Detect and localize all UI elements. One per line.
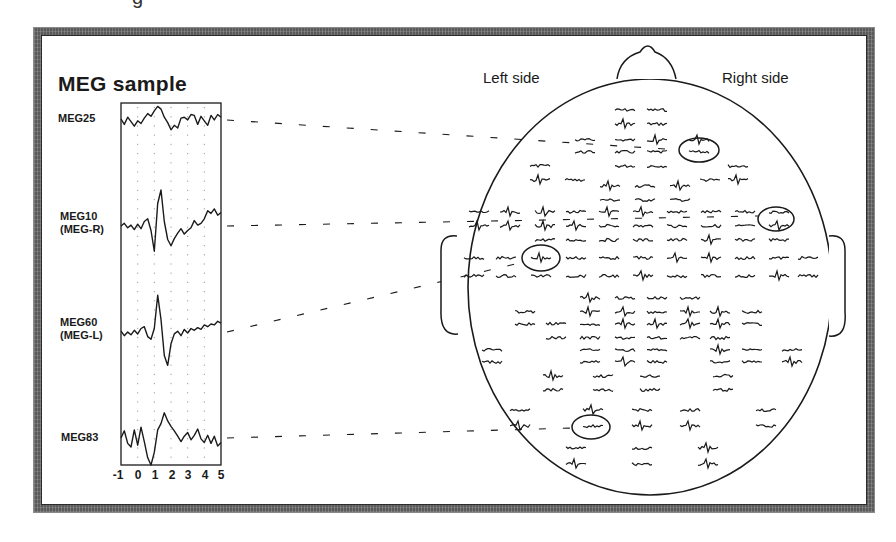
sensor-trace [615,297,635,300]
sensor-trace [647,319,667,328]
channel-sublabel: (MEG-R) [60,223,104,236]
sensor-trace [535,239,555,242]
sensor-trace [633,271,653,280]
sensor-trace [713,389,733,392]
channel-sublabel: (MEG-L) [60,329,103,342]
sensor-trace [464,257,484,260]
sensor-trace [701,253,721,262]
connector-line [227,262,524,332]
sensor-trace [742,349,762,350]
sensor-trace [546,323,566,325]
sensor-trace [580,324,600,325]
sensor-trace [543,389,563,391]
sensor-trace [728,165,748,168]
sensor-trace [713,375,733,378]
sensor-trace [599,207,619,216]
sensor-trace [647,311,667,313]
sensor-trace [710,307,730,316]
sensor-trace [647,297,667,299]
sensor-trace [640,375,660,377]
sensor-trace [680,319,700,328]
sensor-trace [698,459,718,468]
sensor-trace [615,337,635,339]
x-tick: 2 [169,468,176,482]
sensor-trace [756,409,776,412]
sensor-trace [482,349,502,352]
trace-meg60 [121,295,221,365]
sensor-trace [647,349,667,351]
channel-label-meg25: MEG25 [58,112,95,125]
sensor-trace [632,447,652,449]
sensor-trace [600,199,620,201]
highlighted-sensor-circles [522,138,794,439]
sensor-trace [583,425,603,428]
x-tick: 0 [135,468,142,482]
sensor-trace [701,211,721,213]
sensor-trace [710,337,730,340]
sensor-trace [482,361,502,364]
sensor-trace [640,389,660,392]
sensor-trace [546,337,566,340]
x-tick: 1 [152,468,159,482]
sensor-trace [735,275,755,278]
sensor-trace [566,257,586,260]
x-tick: 4 [202,468,209,482]
highlight-circle [758,207,794,231]
sensor-trace [615,319,635,328]
connector-line [227,120,680,150]
sensor-trace [615,357,635,366]
meg-figure: g MEG sample MEG25 MEG10 (MEG-R) MEG60 (… [0,0,896,542]
sensor-trace [575,151,595,154]
sensor-trace [701,225,721,228]
sensor-trace [530,165,550,168]
sensor-trace [647,123,667,126]
sensor-trace [531,275,551,278]
sensor-trace [667,239,687,241]
sensor-trace [469,221,489,230]
sensor-trace [599,257,619,260]
sensor-trace [566,211,586,214]
channel-name: MEG60 [60,316,103,329]
channel-label-meg83: MEG83 [61,431,98,444]
channel-name: MEG25 [58,112,95,125]
sensor-trace [515,311,535,314]
right-side-label: Right side [722,69,789,86]
sensor-trace [593,389,613,392]
sensor-trace [633,225,653,227]
sensor-trace [469,211,489,213]
connector-line [227,216,758,226]
sensor-trace [615,165,635,167]
sensor-trace [510,409,530,411]
highlight-circle [522,245,560,271]
sensor-trace [689,135,709,144]
sensor-trace [566,459,586,468]
sensor-trace [769,271,789,280]
sensor-trace [632,421,652,430]
sensor-trace [647,337,667,339]
sensor-trace [535,207,555,216]
sensor-trace [742,323,762,326]
sensor-trace [593,375,613,378]
sensor-trace [615,139,635,141]
x-tick: -1 [113,468,124,482]
sensor-trace [782,357,802,366]
left-side-label: Left side [483,69,540,86]
sensor-trace [580,293,600,302]
sensor-trace [670,199,690,202]
sample-gridlines [138,107,205,463]
sensor-trace [769,211,789,213]
sensor-trace [615,109,635,111]
sensor-trace [710,319,730,328]
sensor-trace [464,275,484,278]
x-tick: 5 [218,468,225,482]
sensor-trace [701,275,721,278]
sensor-trace [680,421,700,430]
sensor-trace [566,275,586,278]
sensor-trace [735,239,755,242]
sensor-trace [566,447,586,449]
sensor-trace [769,239,789,242]
sensor-trace [689,151,709,154]
sensor-trace [615,151,635,154]
channel-label-meg60: MEG60 (MEG-L) [60,316,103,342]
sensor-trace [756,425,776,427]
